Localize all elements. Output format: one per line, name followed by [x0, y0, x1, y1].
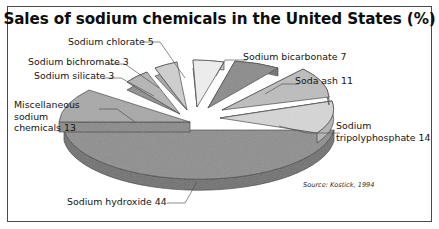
pie-chart-figure: Sales of sodium chemicals in the United … [0, 0, 439, 229]
label-misc-line-1: Miscellaneous [14, 99, 80, 111]
label-sodium-silicate: Sodium silicate 3 [34, 70, 114, 81]
pie-slice-sodium-hydroxide[interactable] [64, 130, 334, 190]
label-miscellaneous-sodium-chemicals: Miscellaneous sodium chemicals 13 [14, 99, 80, 134]
label-sodium-chlorate: Sodium chlorate 5 [68, 36, 154, 47]
label-tripoly-line-2: tripolyphosphate 14 [336, 132, 430, 144]
label-misc-line-3: chemicals 13 [14, 122, 80, 134]
label-sodium-bichromate: Sodium bichromate 3 [28, 56, 129, 67]
label-soda-ash: Soda ash 11 [295, 75, 353, 86]
label-tripoly-line-1: Sodium [336, 120, 430, 132]
label-misc-line-2: sodium [14, 111, 80, 123]
label-sodium-tripolyphosphate: Sodium tripolyphosphate 14 [336, 120, 430, 143]
source-citation: Source: Kostick, 1994 [303, 181, 375, 189]
label-sodium-bicarbonate: Sodium bicarbonate 7 [243, 51, 346, 62]
label-sodium-hydroxide: Sodium hydroxide 44 [67, 196, 167, 207]
